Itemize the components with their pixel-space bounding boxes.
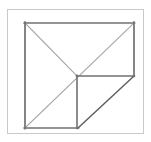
figure-container — [0, 0, 151, 142]
figure-background — [0, 0, 151, 142]
tangram-diagram — [0, 0, 151, 142]
